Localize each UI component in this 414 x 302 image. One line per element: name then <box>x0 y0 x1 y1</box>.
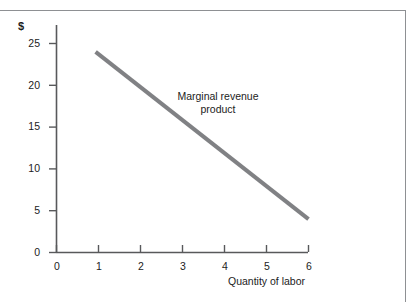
chart-screenshot: $ 0 5 10 15 20 25 0 1 2 3 4 5 6 Quantity… <box>0 0 414 302</box>
y-tick-label-5: 5 <box>14 205 40 216</box>
y-tick-label-10: 10 <box>14 163 40 174</box>
marginal-revenue-product-annotation: Marginal revenue product <box>160 90 276 116</box>
x-tick-label-5: 5 <box>257 261 277 272</box>
marginal-revenue-product-chart: $ 0 5 10 15 20 25 0 1 2 3 4 5 6 Quantity… <box>0 0 414 302</box>
y-tick-label-25: 25 <box>14 38 40 49</box>
y-tick-label-0: 0 <box>14 247 40 258</box>
x-tick-label-2: 2 <box>131 261 151 272</box>
annotation-line-2: product <box>160 103 276 116</box>
y-tick-label-15: 15 <box>14 121 40 132</box>
annotation-line-1: Marginal revenue <box>160 90 276 103</box>
y-axis-unit-label: $ <box>18 20 24 32</box>
plot-canvas <box>0 0 414 302</box>
y-axis-ticks <box>49 44 56 253</box>
x-tick-label-3: 3 <box>173 261 193 272</box>
x-tick-label-6: 6 <box>299 261 319 272</box>
x-tick-label-1: 1 <box>89 261 109 272</box>
x-axis-title: Quantity of labor <box>228 275 305 287</box>
x-axis-ticks <box>57 245 309 252</box>
y-tick-label-20: 20 <box>14 80 40 91</box>
x-tick-label-4: 4 <box>215 261 235 272</box>
x-tick-label-0: 0 <box>47 261 67 272</box>
marginal-revenue-product-line <box>96 52 309 219</box>
